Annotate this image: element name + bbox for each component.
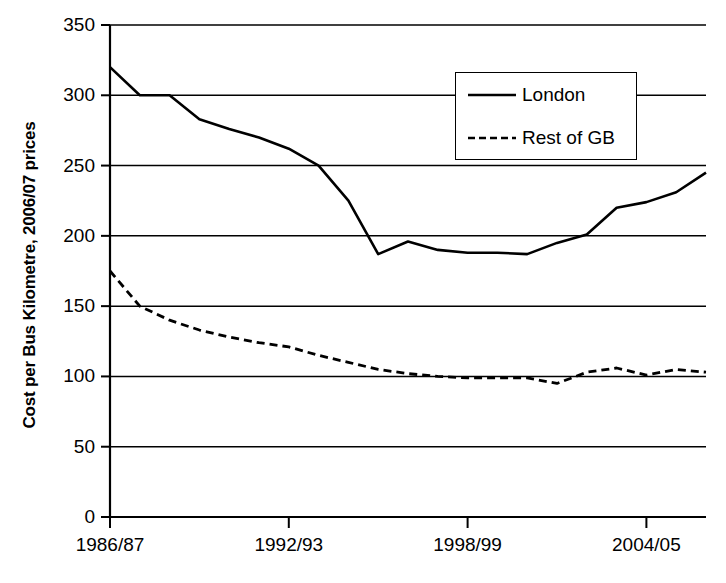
legend-swatch-solid-icon xyxy=(466,89,518,101)
legend-label-rest-of-gb: Rest of GB xyxy=(518,127,615,149)
y-axis-tick-label: 0 xyxy=(37,507,95,526)
legend-item-rest-of-gb: Rest of GB xyxy=(456,116,636,159)
series-line-rest-of-gb xyxy=(110,271,706,383)
y-axis-tick-label: 350 xyxy=(37,15,95,34)
y-axis-tick-label: 150 xyxy=(37,296,95,315)
legend-swatch-dashed-icon xyxy=(466,132,518,144)
y-axis-tick-label: 200 xyxy=(37,226,95,245)
x-axis-tick-label: 2004/05 xyxy=(576,535,716,554)
y-axis-tick-label: 300 xyxy=(37,85,95,104)
line-chart: Cost per Bus Kilometre, 2006/07 prices 3… xyxy=(0,0,726,583)
legend-item-london: London xyxy=(456,73,636,116)
legend-label-london: London xyxy=(518,84,585,106)
y-axis-tick-label: 100 xyxy=(37,366,95,385)
y-axis-tick-label: 50 xyxy=(37,437,95,456)
x-axis-tick-label: 1998/99 xyxy=(398,535,538,554)
x-axis-tick-label: 1986/87 xyxy=(40,535,180,554)
y-axis-tick-label: 250 xyxy=(37,156,95,175)
legend: London Rest of GB xyxy=(455,72,637,160)
x-axis-tick-label: 1992/93 xyxy=(219,535,359,554)
